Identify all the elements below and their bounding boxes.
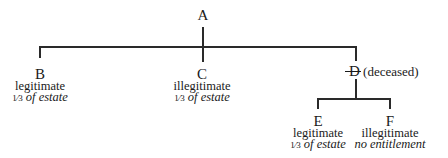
node-e: E legitimate 1⁄3 of estate [290, 114, 346, 151]
node-d: D (deceased) [349, 63, 419, 80]
generation-2-bar [317, 98, 391, 100]
node-b-share: 1⁄3 of estate [12, 92, 68, 104]
drop-e-line [317, 98, 319, 109]
drop-b-line [39, 46, 41, 58]
root-stem-line [202, 27, 204, 62]
node-c-share: 1⁄3 of estate [174, 92, 231, 104]
node-f: F illegitimate no entitlement [354, 114, 425, 150]
drop-f-line [389, 98, 391, 109]
d-stem-line [355, 79, 357, 99]
node-e-share: 1⁄3 of estate [290, 139, 346, 151]
generation-1-bar [39, 46, 356, 48]
node-a: A [198, 8, 209, 22]
node-d-label: D [349, 63, 360, 79]
node-a-label: A [198, 8, 209, 22]
node-b: B legitimate 1⁄3 of estate [12, 67, 68, 104]
node-c: C illegitimate 1⁄3 of estate [174, 67, 231, 104]
node-d-annotation: (deceased) [363, 64, 419, 79]
node-f-share: no entitlement [354, 139, 425, 150]
drop-d-line [355, 46, 357, 61]
